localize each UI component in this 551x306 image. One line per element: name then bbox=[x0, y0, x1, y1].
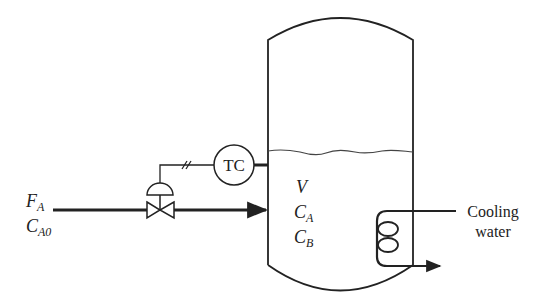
cooling-label-line1: Cooling bbox=[467, 203, 519, 221]
svg-text:CA0: CA0 bbox=[26, 216, 51, 239]
cooling-label-line2: water bbox=[475, 223, 511, 240]
svg-text:FA: FA bbox=[25, 191, 45, 214]
feed-conc-subscript: A0 bbox=[37, 225, 51, 239]
cooling-coil bbox=[377, 211, 456, 266]
feed-labels: FA CA0 bbox=[25, 191, 51, 239]
temperature-controller: TC bbox=[214, 145, 268, 185]
svg-text:V: V bbox=[296, 177, 309, 197]
tc-label: TC bbox=[223, 156, 245, 175]
flow-subscript: A bbox=[36, 200, 45, 214]
liquid-level bbox=[268, 150, 413, 155]
reactor-diagram: TC FA CA0 V CA CB Cooling water bbox=[0, 0, 551, 306]
cooling-water-label: Cooling water bbox=[467, 203, 519, 240]
svg-text:CA: CA bbox=[294, 202, 314, 225]
control-valve bbox=[147, 183, 174, 218]
conc-a-subscript: A bbox=[305, 211, 314, 225]
signal-line bbox=[160, 161, 214, 183]
vessel-variables: V CA CB bbox=[294, 177, 314, 250]
volume-symbol: V bbox=[296, 177, 309, 197]
svg-text:CB: CB bbox=[294, 227, 314, 250]
reactor-vessel bbox=[268, 18, 413, 291]
conc-b-subscript: B bbox=[306, 236, 314, 250]
